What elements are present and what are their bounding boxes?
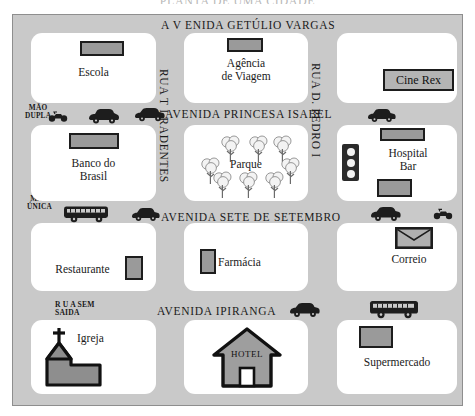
street-label-tiradentes: RUA T I RADENTES: [158, 69, 170, 183]
street-label-rua-sem-saida: R U A SEM SAIDA: [55, 301, 95, 318]
city-map: PLANTA DE UMA CIDADE A V ENIDA GETÚLIO V…: [0, 0, 475, 416]
block-label-farmacia: Farmácia: [218, 256, 298, 269]
street-label-d-pedro-i: RUA D. PEDRO I: [310, 63, 322, 158]
block-label-agencia-viagem: Agência de Viagem: [184, 57, 308, 83]
banco-sign-icon: [69, 133, 119, 149]
block-farmacia[interactable]: Farmácia: [184, 223, 308, 291]
car-icon: [370, 206, 402, 222]
car-icon: [134, 107, 166, 122]
bus-icon: [63, 205, 111, 223]
car-icon: [289, 302, 321, 318]
block-label-correio: Correio: [361, 253, 457, 266]
block-parque[interactable]: Parque: [184, 125, 308, 201]
street-canvas: A V ENIDA GETÚLIO VARGAS AVENIDA PRINCES…: [12, 14, 463, 406]
street-label-ipiranga: AVENIDA IPIRANGA: [157, 305, 276, 317]
bar-sign-icon: [377, 179, 412, 197]
street-label-princesa-isabel: AVENIDA PRINCESA ISABEL: [165, 108, 332, 120]
hospital-sign-icon: [380, 128, 425, 141]
block-correio[interactable]: Correio: [337, 223, 457, 291]
block-label-banco-do-brasil: Banco do Brasil: [31, 157, 156, 183]
bus-icon: [369, 299, 421, 319]
block-label-parque: Parque: [184, 158, 308, 171]
envelope-icon: [395, 227, 433, 249]
block-restaurante[interactable]: Restaurante: [31, 223, 156, 291]
block-hotel[interactable]: HOTEL: [184, 320, 308, 394]
block-label-escola: Escola: [31, 66, 156, 79]
motorcycle-icon: [433, 208, 453, 220]
restaurante-door-icon: [125, 256, 143, 280]
supermercado-sign-icon: [359, 326, 393, 348]
block-label-restaurante: Restaurante: [31, 263, 134, 276]
street-label-sete-de-setembro: AVENIDA SETE DE SETEMBRO: [161, 211, 341, 223]
car-icon: [131, 207, 161, 222]
block-supermercado[interactable]: Supermercado: [337, 320, 457, 394]
car-icon: [87, 108, 121, 124]
block-label-supermercado: Supermercado: [337, 356, 457, 369]
block-igreja[interactable]: Igreja: [31, 320, 156, 394]
block-label-hospital-bar: Hospital Bar: [359, 147, 457, 173]
block-agencia-viagem[interactable]: Agência de Viagem: [184, 33, 308, 103]
agencia-sign-icon: [227, 38, 263, 52]
tree-icon: [238, 169, 260, 203]
block-label-hotel: HOTEL: [216, 348, 278, 361]
motorcycle-icon: [48, 111, 68, 122]
block-escola[interactable]: Escola: [31, 33, 156, 103]
tree-icon: [264, 169, 286, 203]
car-icon: [367, 108, 397, 123]
tree-icon: [212, 169, 234, 203]
block-hospital-bar[interactable]: Hospital Bar: [337, 125, 457, 201]
block-label-igreja: Igreja: [77, 332, 147, 345]
cine-rex-marquee-sign[interactable]: Cine Rex: [383, 69, 454, 91]
block-cine-rex[interactable]: Cine Rex: [337, 33, 457, 103]
escola-sign-icon: [80, 41, 124, 56]
page-title: PLANTA DE UMA CIDADE: [0, 0, 475, 4]
block-label-cine-rex: Cine Rex: [396, 73, 441, 88]
traffic-light-icon: [342, 144, 359, 181]
farmacia-door-icon: [200, 249, 216, 274]
block-banco-do-brasil[interactable]: Banco do Brasil: [31, 125, 156, 201]
street-label-getulio-vargas: A V ENIDA GETÚLIO VARGAS: [161, 19, 335, 31]
